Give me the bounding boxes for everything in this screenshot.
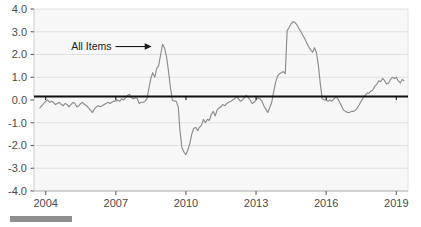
footer-rule-bar bbox=[10, 216, 72, 222]
x-axis-tick-label: 2007 bbox=[104, 197, 128, 209]
y-axis-tick-label: 3.0 bbox=[12, 26, 27, 38]
x-axis-tick-label: 2004 bbox=[33, 197, 57, 209]
x-axis-tick-label: 2010 bbox=[174, 197, 198, 209]
y-axis-tick-label: 2.0 bbox=[12, 48, 27, 60]
y-axis-tick-label: 1.0 bbox=[12, 71, 27, 83]
y-axis-tick-label: -1.0 bbox=[8, 117, 27, 129]
x-axis-tick-label: 2016 bbox=[314, 197, 338, 209]
line-chart-svg: 4.03.02.01.00.0-1.0-2.0-3.0-4.0 20042007… bbox=[0, 0, 421, 227]
y-axis-tick-labels: 4.03.02.01.00.0-1.0-2.0-3.0-4.0 bbox=[8, 3, 27, 197]
y-axis-tick-label: 0.0 bbox=[12, 94, 27, 106]
y-axis-tick-label: 4.0 bbox=[12, 3, 27, 15]
y-axis-tick-label: -4.0 bbox=[8, 185, 27, 197]
annotation-label: All Items bbox=[71, 40, 111, 52]
x-axis-tick-label: 2019 bbox=[384, 197, 408, 209]
chart-figure: 4.03.02.01.00.0-1.0-2.0-3.0-4.0 20042007… bbox=[0, 0, 421, 227]
y-axis-tick-label: -3.0 bbox=[8, 162, 27, 174]
y-axis-tick-label: -2.0 bbox=[8, 139, 27, 151]
plot-background bbox=[34, 9, 408, 191]
y-axis-ticks bbox=[31, 9, 35, 191]
x-axis-tick-labels: 200420072010201320162019 bbox=[33, 197, 408, 209]
x-axis-tick-label: 2013 bbox=[244, 197, 268, 209]
